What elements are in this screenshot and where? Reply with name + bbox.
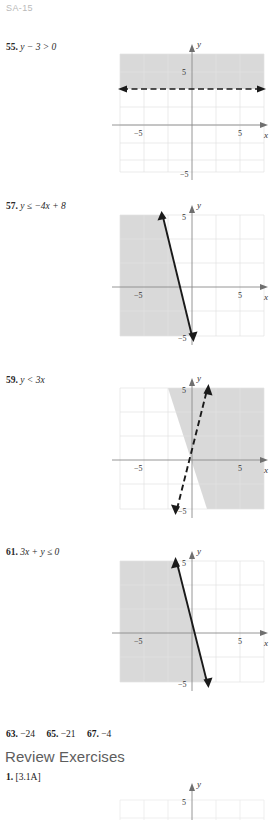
- section-heading: Review Exercises: [5, 748, 125, 765]
- problem-expression-61: 3x + y ≤ 0: [20, 547, 59, 557]
- graph-svg-57: y x 5 5 −5 −5: [112, 195, 272, 350]
- shaded-region-57: [120, 215, 192, 336]
- graph-review-1: y 5: [112, 780, 272, 820]
- y-axis-label-59: y: [196, 373, 201, 383]
- x-tick-label-61: 5: [238, 637, 242, 646]
- problem-label-55: 55. y − 3 > 0: [6, 43, 56, 53]
- x-tick-label-neg-55: −5: [134, 129, 143, 138]
- answers-row: 63. −24 65. −21 67. −4: [6, 729, 120, 739]
- answer-value-67: −4: [101, 729, 111, 739]
- y-axis-arrow-review-1: [189, 783, 195, 791]
- y-tick-label-neg-55: −5: [180, 170, 189, 179]
- problem-number-55: 55.: [6, 42, 18, 52]
- answer-value-63: −24: [20, 729, 35, 739]
- review-item-1: 1. [3.1A]: [6, 772, 41, 782]
- y-axis-label-61: y: [196, 546, 201, 556]
- y-axis-arrow-57: [189, 205, 195, 213]
- x-tick-label-57: 5: [238, 291, 242, 300]
- problem-label-59: 59. y < 3x: [6, 376, 45, 386]
- y-tick-label-neg-61: −5: [178, 680, 187, 689]
- y-tick-label-59: 5: [182, 386, 186, 395]
- review-item-reference: [3.1A]: [16, 772, 41, 782]
- answer-number-65: 65.: [46, 729, 58, 739]
- graph-svg-61: y x 5 5 −5 −5: [112, 541, 272, 696]
- y-tick-label-61: 5: [182, 559, 186, 568]
- y-axis-label-review-1: y: [196, 780, 201, 789]
- problem-label-57: 57. y ≤ −4x + 8: [6, 202, 66, 212]
- x-tick-label-55: 5: [238, 129, 242, 138]
- x-axis-label-59: x: [263, 465, 268, 475]
- graph-svg-review-1: y 5: [112, 780, 272, 820]
- problem-expression-55: y − 3 > 0: [20, 42, 56, 52]
- problem-expression-59: y < 3x: [20, 375, 44, 385]
- y-axis-arrow-55: [189, 44, 195, 52]
- graph-59: y x 5 5 −5 −5: [112, 368, 272, 523]
- problem-expression-57: y ≤ −4x + 8: [20, 201, 65, 211]
- graph-57: y x 5 5 −5 −5: [112, 195, 272, 350]
- graph-svg-59: y x 5 5 −5 −5: [112, 368, 272, 523]
- y-tick-label-55: 5: [182, 68, 186, 77]
- answer-value-65: −21: [61, 729, 76, 739]
- problem-number-57: 57.: [6, 201, 18, 211]
- problem-number-59: 59.: [6, 375, 18, 385]
- x-tick-label-neg-61: −5: [134, 637, 143, 646]
- graph-61: y x 5 5 −5 −5: [112, 541, 272, 696]
- shaded-region-61: [120, 561, 207, 682]
- y-axis-label-55: y: [196, 40, 201, 49]
- problem-number-61: 61.: [6, 547, 18, 557]
- running-head: SA-15: [6, 3, 33, 13]
- graph-55: y x 5 5 −5 −5: [112, 40, 272, 185]
- x-tick-label-59: 5: [238, 464, 242, 473]
- x-axis-label-57: x: [263, 292, 268, 302]
- y-axis-arrow-61: [189, 551, 195, 559]
- y-tick-label-neg-57: −5: [178, 334, 187, 343]
- graph-svg-55: y x 5 5 −5 −5: [112, 40, 272, 185]
- x-axis-label-61: x: [263, 638, 268, 648]
- y-tick-label-review-1: 5: [182, 798, 186, 807]
- y-tick-label-neg-59: −5: [178, 507, 187, 516]
- answer-number-67: 67.: [87, 729, 99, 739]
- y-axis-arrow-59: [189, 378, 195, 386]
- x-axis-label-55: x: [263, 130, 268, 140]
- x-tick-label-neg-59: −5: [134, 464, 143, 473]
- problem-label-61: 61. 3x + y ≤ 0: [6, 548, 59, 558]
- y-axis-label-57: y: [196, 200, 201, 210]
- review-item-number: 1.: [6, 772, 13, 782]
- answer-number-63: 63.: [6, 729, 18, 739]
- x-tick-label-neg-57: −5: [134, 291, 143, 300]
- y-tick-label-57: 5: [182, 213, 186, 222]
